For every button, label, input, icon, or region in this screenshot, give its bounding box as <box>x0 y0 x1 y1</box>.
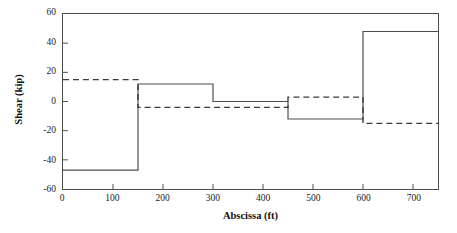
y-tick-label: 20 <box>32 67 56 77</box>
y-axis-tick-labels: 6040200-20-40-60 <box>30 13 56 190</box>
x-tick-label: 100 <box>92 194 132 204</box>
x-axis-title: Abscissa (ft) <box>62 210 439 221</box>
x-tick-label: 200 <box>143 194 183 204</box>
plot-area <box>62 13 439 190</box>
x-tick-label: 500 <box>293 194 333 204</box>
x-tick-label: 600 <box>344 194 384 204</box>
y-axis-title: Shear (kip) <box>13 40 24 160</box>
series-solid-step <box>63 32 438 171</box>
shear-diagram-figure: 6040200-20-40-60 0100200300400500600700 … <box>0 0 457 233</box>
x-tick-label: 700 <box>394 194 434 204</box>
chart-series-svg <box>63 14 438 189</box>
y-tick-label: 40 <box>32 38 56 48</box>
y-tick-label: 60 <box>32 8 56 18</box>
x-axis-tick-labels: 0100200300400500600700 <box>62 194 439 208</box>
y-tick-label: -20 <box>32 126 56 136</box>
x-tick-label: 300 <box>193 194 233 204</box>
y-tick-label: -40 <box>32 156 56 166</box>
x-tick-label: 0 <box>42 194 82 204</box>
y-tick-label: 0 <box>32 97 56 107</box>
x-tick-label: 400 <box>243 194 283 204</box>
